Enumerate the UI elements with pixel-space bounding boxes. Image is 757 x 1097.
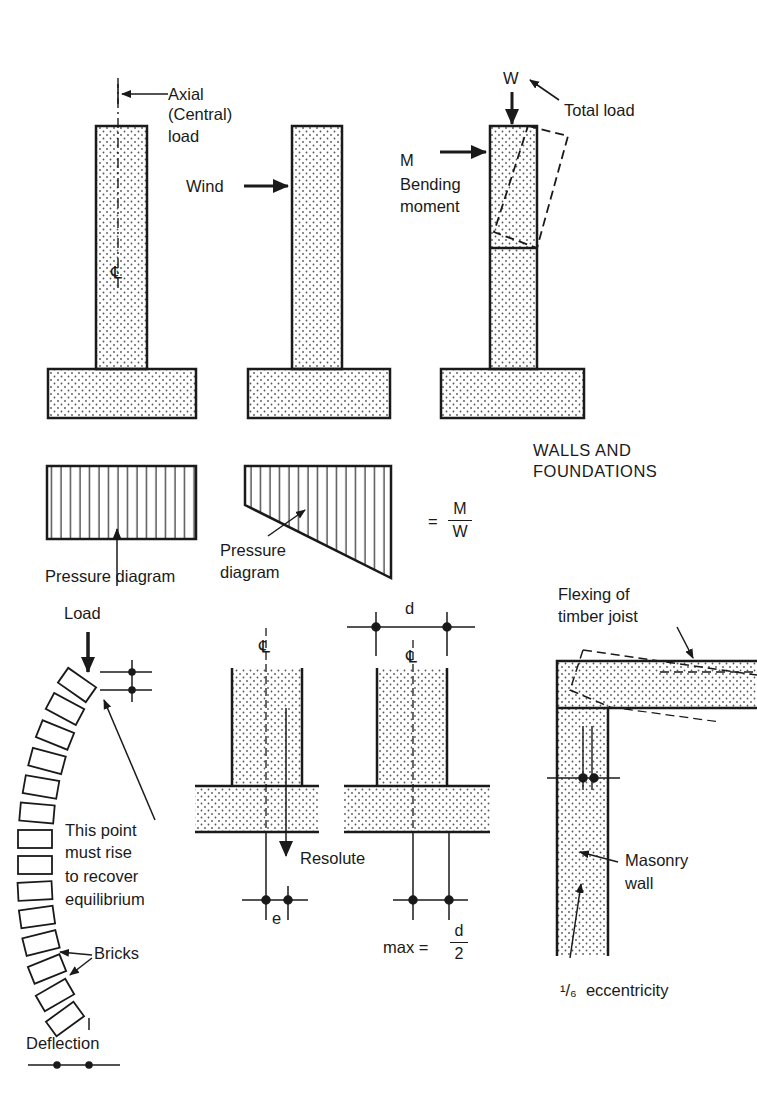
centerline-icon: ℄ <box>259 636 270 656</box>
masonry-wall-label-2: wall <box>625 873 653 893</box>
axial-load-label-1: Axial <box>168 84 204 104</box>
wall-wind-load <box>244 126 390 418</box>
bending-moment-label-1: Bending <box>400 174 461 194</box>
resolute-label: Resolute <box>300 848 365 868</box>
note-line-3: to recover <box>65 866 138 886</box>
masonry-wall-label-1: Masonry <box>625 850 688 870</box>
eccentricity-label: ¹/₆ eccentricity <box>560 980 668 1000</box>
axial-load-label-3: load <box>168 126 199 146</box>
m-over-w-fraction: M W <box>448 500 472 541</box>
fraction-numerator: d <box>450 922 468 940</box>
max-label: max = <box>383 937 428 957</box>
fraction-denominator: W <box>448 523 472 541</box>
equals-sign: = <box>428 511 438 531</box>
centerline-icon: ℄ <box>111 262 122 282</box>
note-line-2: must rise <box>65 842 132 862</box>
centerline-icon: ℄ <box>406 646 417 666</box>
footing-max-eccentricity <box>344 612 490 920</box>
note-line-1: This point <box>65 820 137 840</box>
e-label: e <box>272 908 281 928</box>
fraction-bar <box>448 520 472 521</box>
fraction-numerator: M <box>448 500 472 518</box>
diagram-title: WALLS AND FOUNDATIONS <box>533 440 733 482</box>
pressure-diagram-label-right-2: diagram <box>220 562 280 582</box>
w-symbol: W <box>503 68 519 88</box>
axial-load-label-2: (Central) <box>168 104 232 124</box>
fraction-denominator: 2 <box>450 945 468 963</box>
diagram-drawing <box>0 0 757 1097</box>
wall-bending-moment <box>440 80 584 418</box>
bending-moment-label-2: moment <box>400 196 460 216</box>
deflection-label: Deflection <box>26 1033 99 1053</box>
joist-on-masonry-wall <box>547 627 757 958</box>
bricks-label: Bricks <box>94 943 139 963</box>
fraction-bar <box>450 942 468 943</box>
joist-label-2: timber joist <box>558 606 638 626</box>
d-label: d <box>405 598 414 618</box>
load-label: Load <box>64 603 101 623</box>
footing-eccentric-resolute <box>195 628 319 920</box>
total-load-label: Total load <box>564 100 635 120</box>
note-line-4: equilibrium <box>65 889 145 909</box>
pressure-diagram-label-left: Pressure diagram <box>45 566 175 586</box>
pressure-diagram-label-right-1: Pressure <box>220 540 286 560</box>
walls-and-foundations-diagram: Axial (Central) load ℄ Wind W Total load… <box>0 0 757 1097</box>
d-over-2-fraction: d 2 <box>450 922 468 963</box>
m-symbol: M <box>400 150 414 170</box>
wind-label: Wind <box>186 176 224 196</box>
joist-label-1: Flexing of <box>558 584 630 604</box>
